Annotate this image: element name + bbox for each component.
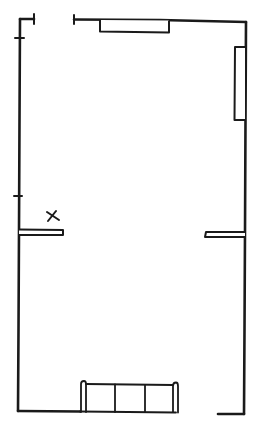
- right-window: [235, 47, 246, 120]
- top-window: [100, 20, 169, 33]
- floor-plan-canvas: X: [0, 0, 262, 428]
- left-wall: [14, 14, 34, 411]
- x-marker-label: X: [0, 0, 11, 4]
- floor-plan-drawing: X: [0, 0, 262, 428]
- bottom-bench: [80, 381, 178, 413]
- left-partition-stub: [19, 230, 63, 236]
- right-partition-stub: [205, 232, 245, 237]
- x-marker: X: [0, 0, 59, 221]
